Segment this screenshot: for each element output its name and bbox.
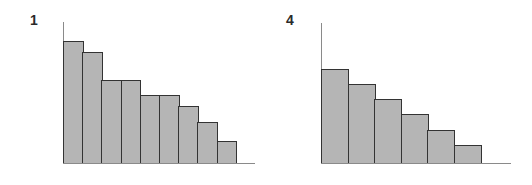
chart-panel-4: 4 xyxy=(0,0,532,185)
panel-label: 4 xyxy=(286,12,294,28)
bar xyxy=(401,114,429,163)
bar xyxy=(427,130,455,163)
bar xyxy=(348,84,376,163)
bar xyxy=(454,145,482,163)
x-axis xyxy=(321,163,511,164)
bar xyxy=(321,69,349,163)
bar xyxy=(374,99,402,163)
